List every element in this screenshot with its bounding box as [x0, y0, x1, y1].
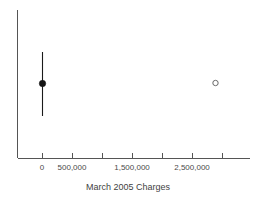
- x-tick-label-0: 0: [40, 163, 44, 172]
- x-tick-label-2500000: 2,500,000: [174, 163, 210, 172]
- x-tick-label-1500000: 1,500,000: [114, 163, 150, 172]
- data-point-filled-circle: [39, 80, 45, 86]
- data-point-open-circle: [213, 80, 218, 85]
- x-axis-title: March 2005 Charges: [0, 182, 256, 193]
- chart-container: 0 500,000 1,500,000 2,500,000 March 2005…: [0, 0, 256, 201]
- x-tick-label-500000: 500,000: [58, 163, 87, 172]
- x-axis-ticks: [43, 153, 223, 158]
